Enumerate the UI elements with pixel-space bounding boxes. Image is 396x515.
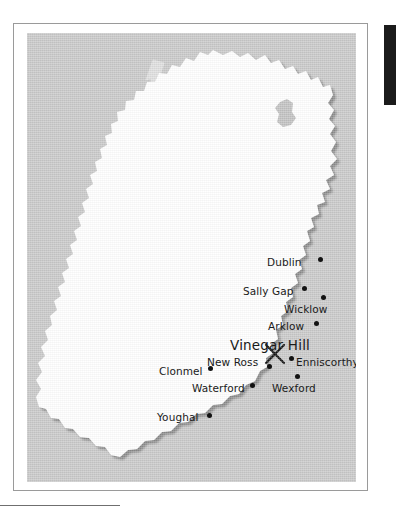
- city-label-wexford[interactable]: Wexford: [272, 383, 316, 394]
- city-dot-enniscorthy[interactable]: [289, 356, 294, 361]
- figure-frame: DublinSally GapWicklowArklowVinegar Hill…: [13, 23, 368, 491]
- city-dot-youghal[interactable]: [207, 413, 212, 418]
- page-root: DublinSally GapWicklowArklowVinegar Hill…: [0, 0, 396, 515]
- page-edge-tab: [384, 25, 396, 105]
- city-label-new-ross[interactable]: New Ross: [207, 357, 258, 368]
- city-dot-arklow[interactable]: [314, 321, 319, 326]
- city-dot-sally-gap[interactable]: [302, 286, 307, 291]
- footer-rule: [0, 505, 120, 506]
- city-dot-wexford[interactable]: [295, 374, 300, 379]
- map-canvas[interactable]: DublinSally GapWicklowArklowVinegar Hill…: [27, 33, 356, 482]
- city-label-youghal[interactable]: Youghal: [157, 412, 198, 423]
- city-label-wicklow[interactable]: Wicklow: [284, 304, 328, 315]
- city-dot-wicklow[interactable]: [321, 295, 326, 300]
- city-label-waterford[interactable]: Waterford: [192, 383, 245, 394]
- city-dot-new-ross[interactable]: [267, 364, 272, 369]
- city-label-sally-gap[interactable]: Sally Gap: [243, 286, 294, 297]
- city-dot-waterford[interactable]: [250, 383, 255, 388]
- city-label-arklow[interactable]: Arklow: [268, 321, 304, 332]
- city-label-enniscorthy[interactable]: Enniscorthy: [296, 357, 356, 368]
- city-label-vinegar-hill[interactable]: Vinegar Hill: [230, 339, 310, 353]
- city-label-clonmel[interactable]: Clonmel: [159, 366, 203, 377]
- city-dot-clonmel[interactable]: [208, 366, 213, 371]
- city-dot-dublin[interactable]: [318, 257, 323, 262]
- city-label-dublin[interactable]: Dublin: [267, 257, 302, 268]
